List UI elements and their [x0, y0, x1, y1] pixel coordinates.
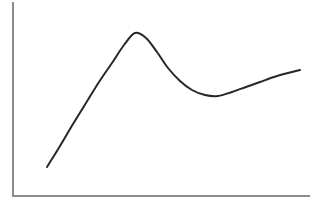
plot-background	[0, 0, 322, 210]
line-chart-figure	[0, 0, 322, 210]
chart-canvas	[0, 0, 322, 210]
